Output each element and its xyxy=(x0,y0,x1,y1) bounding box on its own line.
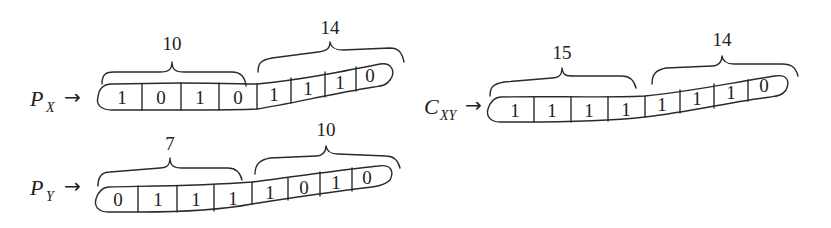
brace-left-py xyxy=(98,158,242,186)
register-label-cxy: C xyxy=(424,94,439,119)
crossover-diagram: P X → 10 14 1 0 1 0 1 1 1 0 xyxy=(0,0,831,228)
bit-cell: 1 xyxy=(269,84,279,105)
bit-cell: 1 xyxy=(195,87,205,108)
cell-dividers-px xyxy=(142,67,356,110)
register-px: P X → 10 14 1 0 1 0 1 1 1 0 xyxy=(29,17,404,115)
bit-cell: 0 xyxy=(299,177,309,198)
register-cxy: C XY → 15 14 1 1 1 1 1 1 1 0 xyxy=(424,29,798,123)
group-count-cxy-right: 14 xyxy=(713,29,733,50)
arrow-icon: → xyxy=(465,93,482,117)
group-count-py-right: 10 xyxy=(317,119,336,140)
bits-cxy: 1 1 1 1 1 1 1 0 xyxy=(510,75,769,121)
bits-py: 0 1 1 1 1 0 1 0 xyxy=(113,167,372,210)
bit-cell: 0 xyxy=(233,87,243,108)
register-label-px: P xyxy=(29,86,43,111)
bit-cell: 1 xyxy=(153,189,163,210)
register-label-sub-cxy: XY xyxy=(439,108,459,123)
bit-cell: 1 xyxy=(265,182,275,203)
bit-cell: 1 xyxy=(621,99,631,120)
brace-right-py xyxy=(255,146,400,174)
arrow-icon: → xyxy=(64,85,81,109)
brace-left-cxy xyxy=(490,68,636,96)
brace-right-px xyxy=(258,42,404,72)
group-count-px-right: 14 xyxy=(321,17,341,38)
register-py: P Y → 7 10 0 1 1 1 1 0 1 0 xyxy=(29,119,400,212)
group-count-py-left: 7 xyxy=(165,133,175,154)
register-label-sub-px: X xyxy=(45,100,55,115)
bit-cell: 0 xyxy=(113,189,123,210)
arrow-icon: → xyxy=(64,174,81,198)
brace-right-cxy xyxy=(652,56,798,84)
bit-cell: 1 xyxy=(657,94,667,115)
group-count-cxy-left: 15 xyxy=(553,42,572,63)
bit-cell: 1 xyxy=(117,87,127,108)
register-label-py: P xyxy=(29,175,43,200)
bit-cell: 1 xyxy=(335,72,345,93)
bit-cell: 1 xyxy=(692,88,702,109)
bit-cell: 1 xyxy=(331,172,341,193)
group-count-px-left: 10 xyxy=(163,33,182,54)
bit-cell: 1 xyxy=(584,100,594,121)
bit-cell: 1 xyxy=(303,78,313,99)
bit-cell: 0 xyxy=(759,75,769,96)
register-capsule-py xyxy=(96,166,392,212)
bit-cell: 1 xyxy=(228,188,238,209)
bit-cell: 0 xyxy=(156,87,166,108)
bit-cell: 1 xyxy=(191,189,201,210)
register-label-sub-py: Y xyxy=(46,189,56,204)
bit-cell: 0 xyxy=(362,167,372,188)
bit-cell: 0 xyxy=(365,65,375,86)
bit-cell: 1 xyxy=(547,100,557,121)
bit-cell: 1 xyxy=(726,82,736,103)
bit-cell: 1 xyxy=(510,100,520,121)
register-capsule-cxy xyxy=(488,76,788,122)
